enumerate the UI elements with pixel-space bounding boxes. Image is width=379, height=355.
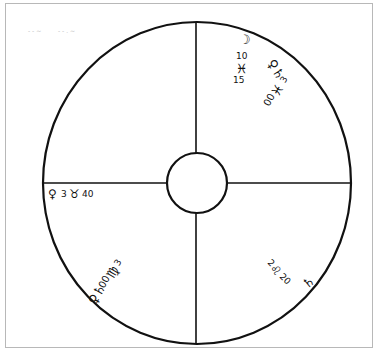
venus-minute: 40 bbox=[82, 190, 93, 199]
venus-icon: ♀ bbox=[48, 188, 57, 200]
inner-circle bbox=[167, 153, 227, 213]
pisces-icon: ♓ bbox=[236, 62, 248, 75]
taurus-icon: ♉ bbox=[69, 188, 80, 200]
venus-degree: 3 bbox=[61, 190, 67, 199]
moon-minute: 15 bbox=[233, 76, 244, 85]
scan-noise: - - . ~ bbox=[58, 27, 75, 34]
scan-noise: - - ~ bbox=[28, 27, 41, 34]
moon-icon: ☽ bbox=[239, 33, 251, 46]
moon-degree: 10 bbox=[236, 52, 247, 61]
chart-wheel bbox=[0, 0, 379, 355]
